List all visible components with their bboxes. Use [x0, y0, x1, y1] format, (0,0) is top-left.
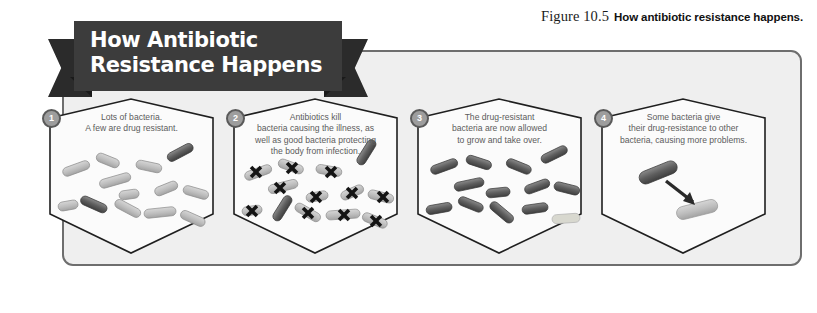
step-badge-1: 1: [42, 109, 61, 128]
figure-caption-text: How antibiotic resistance happens.: [614, 11, 803, 23]
step-4-text: Some bacteria give their drug-resistance…: [606, 112, 761, 146]
figure-container: Figure 10.5How antibiotic resistance hap…: [0, 0, 817, 313]
step-2-line-2: bacteria causing the illness, as: [238, 123, 393, 134]
step-3-line-2: bacteria are now allowed: [422, 123, 577, 134]
banner-title-line-1: How Antibiotic: [90, 28, 342, 53]
step-1-line-1: Lots of bacteria.: [54, 112, 209, 123]
transfer-arrow: [666, 181, 695, 205]
figure-number: Figure 10.5: [541, 8, 609, 24]
step-panel-1: Lots of bacteria. A few are drug resista…: [44, 96, 219, 256]
step-4-line-2: their drug-resistance to other: [606, 123, 761, 134]
step-4-line-3: bacteria, causing more problems.: [606, 135, 761, 146]
step-2-line-3: well as good bacteria protecting: [238, 135, 393, 146]
step-3-line-1: The drug-resistant: [422, 112, 577, 123]
title-ribbon: How Antibiotic Resistance Happens: [48, 21, 368, 99]
step-1-text: Lots of bacteria. A few are drug resista…: [54, 112, 209, 135]
step-1-line-2: A few are drug resistant.: [54, 123, 209, 134]
step-panel-4: Some bacteria give their drug-resistance…: [596, 96, 771, 256]
step-badge-3: 3: [410, 109, 429, 128]
step-4-line-1: Some bacteria give: [606, 112, 761, 123]
figure-caption: Figure 10.5How antibiotic resistance hap…: [541, 8, 803, 25]
step-2-text: Antibiotics kill bacteria causing the il…: [238, 112, 393, 158]
step-2-line-4: the body from infection.: [238, 146, 393, 157]
step-badge-4: 4: [594, 109, 613, 128]
banner-title-line-2: Resistance Happens: [90, 53, 342, 78]
step-2-line-1: Antibiotics kill: [238, 112, 393, 123]
step-3-line-3: to grow and take over.: [422, 135, 577, 146]
ribbon-banner: How Antibiotic Resistance Happens: [74, 21, 342, 91]
step-3-text: The drug-resistant bacteria are now allo…: [422, 112, 577, 146]
step-panel-3: The drug-resistant bacteria are now allo…: [412, 96, 587, 256]
step-panel-2: Antibiotics kill bacteria causing the il…: [228, 96, 403, 256]
step-badge-2: 2: [226, 109, 245, 128]
